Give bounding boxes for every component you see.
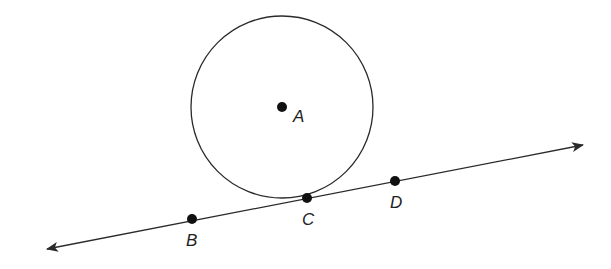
point-label-a: A [292,107,304,126]
point-label-b: B [186,231,197,250]
tangent-line-bd [47,145,583,249]
point-b [187,214,197,224]
geometry-diagram: ABCD [0,0,611,269]
point-a [277,102,287,112]
point-label-d: D [390,193,402,212]
point-c [302,193,312,203]
point-d [390,176,400,186]
point-label-c: C [302,210,315,229]
